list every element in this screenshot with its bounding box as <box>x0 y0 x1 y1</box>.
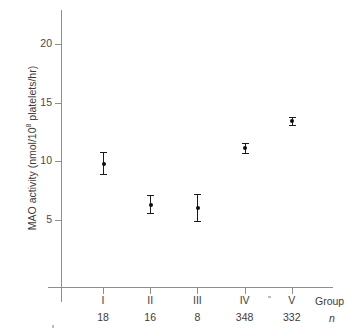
y-axis-tick-label: 20 <box>18 38 52 49</box>
x-axis-n-label: 18 <box>80 312 126 324</box>
x-axis-n-label: 8 <box>174 312 220 324</box>
error-bar-cap <box>242 143 249 144</box>
x-axis-tick <box>245 287 246 294</box>
error-bar-cap <box>100 174 107 175</box>
x-axis-group-label: I <box>80 295 126 307</box>
error-bar-cap <box>242 153 249 154</box>
error-bar-cap <box>194 221 201 222</box>
error-bar-cap <box>147 213 154 214</box>
x-axis-n-label: 332 <box>269 312 315 324</box>
error-bar-cap <box>289 117 296 118</box>
y-axis-title-exponent: 8 <box>25 124 32 128</box>
data-point-marker <box>290 119 294 123</box>
data-point-marker <box>243 146 247 150</box>
x-axis-tick <box>150 287 151 294</box>
y-axis-tick-label: 5 <box>18 214 52 225</box>
data-point-marker <box>102 162 106 166</box>
error-bar-cap <box>100 152 107 153</box>
x-axis-n-label: 16 <box>127 312 173 324</box>
x-axis-group-label: III <box>174 295 220 307</box>
x-axis-caption-n: n <box>329 312 335 324</box>
y-axis-line <box>61 10 62 302</box>
x-axis-group-label: V <box>269 295 315 307</box>
y-axis-tick <box>55 220 62 221</box>
y-axis-tick <box>55 103 62 104</box>
scan-artifact <box>52 325 54 328</box>
y-axis-tick <box>55 161 62 162</box>
error-bar-cap <box>289 125 296 126</box>
x-axis-caption-group: Group <box>315 295 344 307</box>
x-axis-line <box>48 287 333 288</box>
data-point-marker <box>196 206 200 210</box>
x-axis-group-label: II <box>127 295 173 307</box>
y-axis-title-suffix: platelets/hr) <box>26 66 38 124</box>
data-point-marker <box>149 203 153 207</box>
y-axis-tick-label: 10 <box>18 155 52 166</box>
x-axis-tick <box>197 287 198 294</box>
x-axis-group-label: IV <box>222 295 268 307</box>
y-axis-tick <box>55 44 62 45</box>
x-axis-n-label: 348 <box>222 312 268 324</box>
error-bar-cap <box>147 195 154 196</box>
scan-artifact <box>268 296 271 298</box>
error-bar-cap <box>194 194 201 195</box>
mao-activity-scatter-chart: MAO activity (nmol/108 platelets/hr) 510… <box>0 0 360 336</box>
x-axis-tick <box>292 287 293 294</box>
y-axis-tick-label: 15 <box>18 97 52 108</box>
x-axis-tick <box>103 287 104 294</box>
